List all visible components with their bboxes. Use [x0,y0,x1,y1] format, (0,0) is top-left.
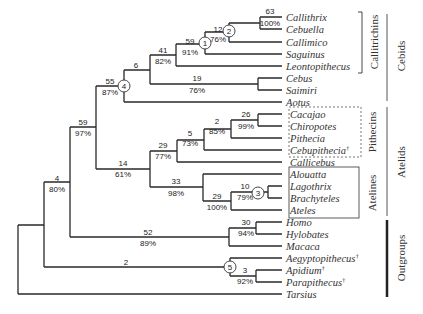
support-bootstrap: 52 [144,228,153,237]
support-percent: 76% [189,86,205,95]
branch-anthropoidea [44,182,230,267]
tree-canvas: 63 100% 12 76% 59 91% 41 82% 19 76% 6 55… [0,0,423,314]
taxon-hylobates: Hylobates [285,229,329,240]
label-outgroups: Outgroups [395,235,407,281]
support-bootstrap: 2 [124,258,129,267]
support-percent: 77% [155,152,171,161]
branch-cebus-saimiri [258,78,282,90]
support-bootstrap: 26 [242,110,251,119]
tree-branches [18,17,282,294]
label-atelines: Atelines [366,175,378,212]
support-percent: 82% [155,57,171,66]
taxon-cacajao: Cacajao [290,109,326,120]
label-cebids: Cebids [395,41,407,72]
support-bootstrap: 3 [243,266,248,275]
support-bootstrap: 55 [106,77,115,86]
support-percent: 76% [210,35,226,44]
support-bootstrap: 59 [79,118,88,127]
taxon-leontopithecus: Leontopithecus [285,61,350,72]
node-marker-label: 4 [122,82,127,91]
taxon-callithrix: Callithrix [286,12,327,23]
taxon-alouatta: Alouatta [289,169,326,180]
support-bootstrap: 6 [134,61,139,70]
branch-apidium-parapithecus [256,270,282,282]
label-pithecins: Pithecins [366,112,378,152]
support-bootstrap: 2 [215,117,220,126]
branch-lagothrix-brachyteles [268,186,282,198]
support-percent: 99% [238,122,254,131]
extinct-dagger-icon: † [322,264,326,272]
taxon-saguinus: Saguinus [286,49,325,60]
support-percent: 79% [237,193,253,202]
support-bootstrap: 59 [186,37,195,46]
support-percent: 80% [49,185,65,194]
extinct-dagger-icon: † [355,252,359,260]
taxon-aotus: Aotus [285,97,310,108]
taxon-brachyteles: Brachyteles [290,193,340,204]
label-callitrichins: Callitrichins [368,15,380,69]
support-percent: 100% [260,19,280,28]
taxon-apidium: Apidium† [285,264,326,276]
support-percent: 61% [115,170,131,179]
support-bootstrap: 4 [55,174,60,183]
support-percent: 98% [168,189,184,198]
taxon-lagothrix: Lagothrix [289,181,332,192]
taxon-name: Parapithecus [285,277,342,288]
support-percent: 92% [237,277,253,286]
branch-cacajao-chiropotes [258,114,282,126]
taxon-chiropotes: Chiropotes [290,121,336,132]
support-bootstrap: 14 [119,159,128,168]
support-percent: 89% [140,239,156,248]
support-bootstrap: 41 [159,46,168,55]
support-bootstrap: 10 [241,182,250,191]
node-marker-label: 2 [227,27,232,36]
taxon-parapithecus: Parapithecus† [285,276,346,288]
support-bootstrap: 29 [213,192,222,201]
support-values: 63 100% 12 76% 59 91% 41 82% 19 76% 6 55… [49,7,280,286]
taxon-macaca: Macaca [285,241,320,252]
taxon-cebuella: Cebuella [286,24,324,35]
node-marker-label: 3 [256,189,261,198]
support-percent: 97% [75,129,91,138]
taxon-ateles: Ateles [289,205,316,216]
extinct-dagger-icon: † [342,276,346,284]
support-percent: 91% [182,48,198,57]
taxon-cebupithecia: Cebupithecia† [290,144,350,156]
taxon-saimiri: Saimiri [286,85,317,96]
taxon-callimico: Callimico [286,37,327,48]
taxon-tarsius: Tarsius [286,289,317,300]
taxon-labels: Callithrix Cebuella Callimico Saguinus L… [285,12,359,300]
taxon-pithecia: Pithecia [289,133,325,144]
extinct-dagger-icon: † [346,144,350,152]
support-percent: 85% [209,127,225,136]
support-bootstrap: 30 [242,218,251,227]
support-percent: 94% [238,229,254,238]
taxon-name: Aegyptopithecus [285,253,355,264]
support-bootstrap: 33 [172,177,181,186]
support-bootstrap: 29 [159,141,168,150]
taxon-name: Apidium [285,265,322,276]
support-percent: 73% [182,139,198,148]
support-bootstrap: 19 [193,74,202,83]
support-percent: 100% [207,203,227,212]
node-marker-label: 5 [228,263,233,272]
support-bootstrap: 5 [188,129,193,138]
phylogenetic-tree-figure: 63 100% 12 76% 59 91% 41 82% 19 76% 6 55… [0,0,423,314]
support-bootstrap: 12 [214,25,223,34]
node-marker-label: 1 [203,39,208,48]
label-atelids: Atelids [395,146,407,178]
branch-platyrrhini [96,86,150,169]
taxon-aegyptopithecus: Aegyptopithecus† [285,252,359,264]
support-bootstrap: 63 [266,7,275,16]
taxon-cebus: Cebus [286,73,312,84]
taxon-homo: Homo [285,217,312,228]
callitrichins-bracket [358,12,362,73]
taxon-name: Cebupithecia [290,145,346,156]
taxon-callicebus: Callicebus [290,157,335,168]
support-percent: 87% [102,88,118,97]
branch-homo-hylobates [256,222,282,234]
